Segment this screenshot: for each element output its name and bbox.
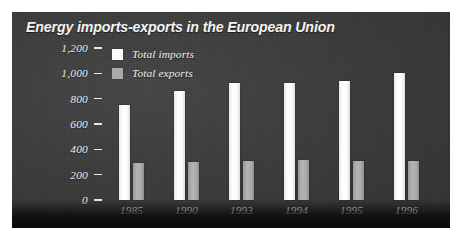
bar-exports-1990 (188, 162, 199, 200)
bar-imports-1995 (339, 81, 350, 200)
y-axis-tick-label: 1,000 (61, 67, 88, 79)
legend-label: Total exports (132, 67, 193, 79)
y-axis-tick: 200 (30, 168, 102, 182)
legend-swatch-exports (112, 68, 123, 79)
y-axis-tick: 1,000 (30, 66, 102, 80)
bar-exports-1993 (243, 161, 254, 200)
plot-area: 1,2001,0008006004002000 1985199019931994… (12, 12, 450, 228)
x-axis-tick-label: 1995 (324, 204, 379, 216)
bar-group (324, 48, 379, 200)
y-axis-tick-mark (94, 73, 102, 75)
y-axis-tick: 0 (30, 193, 102, 207)
legend-label: Total imports (132, 48, 194, 60)
bar-group (269, 48, 324, 200)
bar-imports-1993 (229, 83, 240, 200)
bar-exports-1996 (408, 161, 419, 200)
y-axis-tick-mark (94, 123, 102, 125)
y-axis-tick-mark (94, 174, 102, 176)
y-axis-tick-label: 800 (70, 93, 88, 105)
x-axis-tick-label: 1994 (269, 204, 324, 216)
bar-group (214, 48, 269, 200)
bar-imports-1994 (284, 83, 295, 200)
y-axis-tick: 800 (30, 92, 102, 106)
y-axis-tick: 1,200 (30, 41, 102, 55)
y-axis-tick-mark (94, 47, 102, 49)
y-axis-tick: 400 (30, 142, 102, 156)
y-axis-tick-mark (94, 199, 102, 201)
bar-imports-1990 (174, 91, 185, 200)
bar-group (379, 48, 434, 200)
chart-legend: Total importsTotal exports (112, 46, 194, 84)
y-axis-tick-label: 1,200 (61, 42, 88, 54)
y-axis-tick-mark (94, 149, 102, 151)
y-axis-tick-mark (94, 98, 102, 100)
chart-figure: Energy imports-exports in the European U… (0, 0, 462, 240)
x-axis: 198519901993199419951996 (104, 204, 434, 222)
bar-exports-1995 (353, 161, 364, 200)
x-axis-tick-label: 1993 (214, 204, 269, 216)
x-axis-tick-label: 1996 (379, 204, 434, 216)
bar-exports-1985 (133, 163, 144, 200)
y-axis-tick: 600 (30, 117, 102, 131)
y-axis-tick-label: 400 (70, 143, 88, 155)
chart-panel: Energy imports-exports in the European U… (12, 12, 450, 228)
y-axis-tick-label: 0 (82, 194, 88, 206)
bar-imports-1996 (394, 73, 405, 200)
y-axis-tick-label: 600 (70, 118, 88, 130)
bar-imports-1985 (119, 105, 130, 200)
x-axis-tick-label: 1985 (104, 204, 159, 216)
legend-swatch-imports (112, 49, 123, 60)
y-axis-tick-label: 200 (70, 169, 88, 181)
x-axis-tick-label: 1990 (159, 204, 214, 216)
legend-item: Total imports (112, 46, 194, 62)
bar-exports-1994 (298, 160, 309, 200)
legend-item: Total exports (112, 65, 194, 81)
